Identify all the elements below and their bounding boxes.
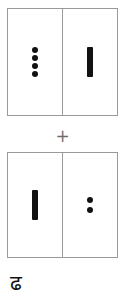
tally-bar [87,47,93,77]
pip [32,55,38,61]
top-domino-right-half [63,9,118,115]
pip [87,207,93,213]
pip [87,197,93,203]
tally-bar [32,190,38,220]
pip [32,63,38,69]
plus-operator-icon: + [0,124,125,148]
top-domino [7,8,118,116]
bottom-domino [7,152,118,258]
diagram-canvas: + ढ [0,0,125,303]
pip [32,71,38,77]
pip-group-two [87,195,93,215]
pip-group-four [32,46,38,78]
bottom-domino-left-half [8,153,63,257]
bottom-domino-right-half [63,153,118,257]
top-domino-left-half [8,9,63,115]
pip [32,47,38,53]
caption-glyph: ढ [10,272,44,300]
